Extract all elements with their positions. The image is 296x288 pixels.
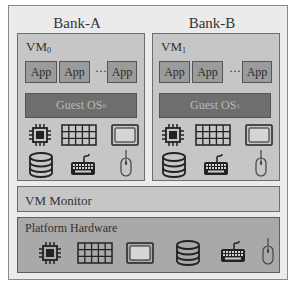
app-box: App (192, 61, 223, 83)
display-icon (111, 124, 139, 146)
storage-disk-icon (161, 152, 187, 178)
vm-monitor-label: VM Monitor (25, 193, 92, 209)
keyboard-icon (203, 153, 229, 177)
mouse-icon (119, 150, 133, 178)
app-box: App (25, 61, 57, 83)
bank-a-title: Bank-A (13, 15, 141, 32)
bank-b-title: Bank-B (148, 15, 276, 32)
memory-grid-icon (195, 124, 231, 146)
platform-hardware-label: Platform Hardware (25, 221, 117, 236)
storage-disk-icon (28, 152, 54, 178)
vm-0-box: VM0 App App ··· App Guest OS0 (17, 33, 145, 181)
mouse-icon (254, 150, 268, 178)
app-box: App (59, 61, 90, 83)
ellipsis: ··· (95, 64, 107, 79)
cpu-icon (28, 123, 52, 147)
vm-1-box: VM1 App App ··· App Guest OS1 (152, 33, 280, 181)
mouse-icon (261, 238, 275, 266)
app-box: App (242, 61, 272, 83)
ellipsis: ··· (229, 64, 241, 79)
keyboard-icon (220, 240, 246, 264)
app-box: App (107, 61, 137, 83)
cpu-icon (38, 241, 62, 265)
platform-hardware-box: Platform Hardware (17, 217, 280, 273)
display-icon (126, 242, 154, 264)
vm-1-label: VM1 (161, 39, 186, 55)
guest-os-1-box: Guest OS1 (159, 93, 271, 118)
storage-disk-icon (175, 240, 201, 266)
cpu-icon (161, 123, 185, 147)
display-icon (245, 124, 273, 146)
memory-grid-icon (77, 242, 113, 264)
app-box: App (159, 61, 190, 83)
vm-monitor-box: VM Monitor (17, 186, 280, 212)
vm-0-label: VM0 (26, 39, 51, 55)
guest-os-0-box: Guest OS0 (25, 93, 137, 118)
memory-grid-icon (61, 124, 97, 146)
keyboard-icon (70, 153, 96, 177)
diagram-frame: Bank-A VM0 App App ··· App Guest OS0 Ban… (8, 5, 288, 280)
